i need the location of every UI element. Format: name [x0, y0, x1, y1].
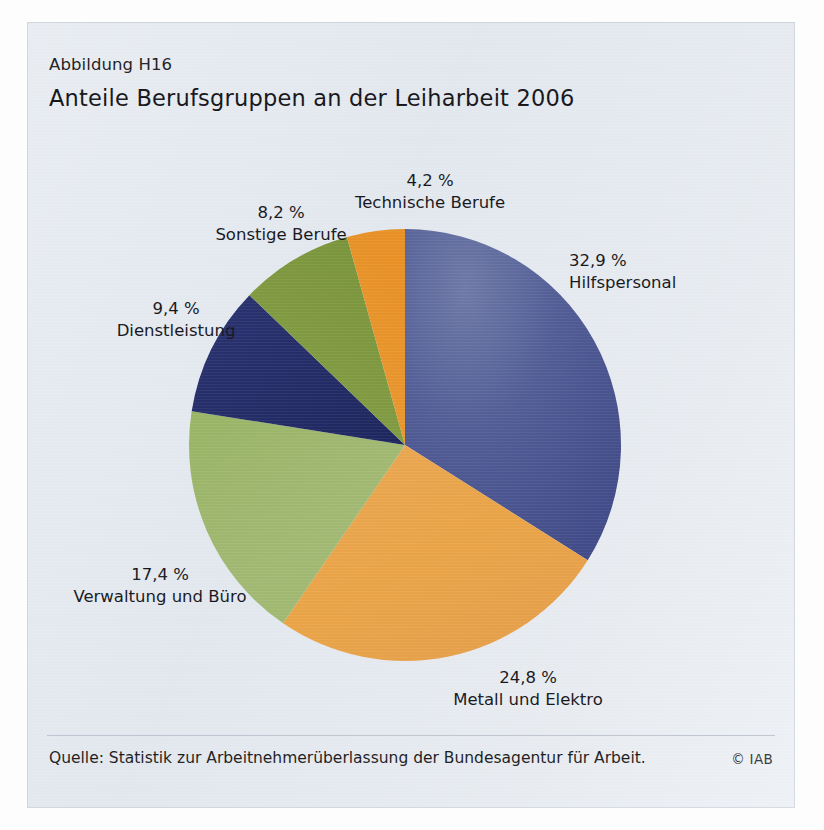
pie-label-sonstige-berufe-name: Sonstige Berufe [191, 224, 371, 246]
pie-label-verwaltung-und-buero-value: 17,4 % [37, 564, 283, 586]
pie-label-dienstleistung: 9,4 % Dienstleistung [86, 298, 266, 342]
pie-label-dienstleistung-name: Dienstleistung [86, 320, 266, 342]
source-note: Quelle: Statistik zur Arbeitnehmerüberla… [49, 749, 646, 767]
pie-chart: 4,2 % Technische Berufe 8,2 % Sonstige B… [27, 22, 795, 808]
pie-label-sonstige-berufe-value: 8,2 % [191, 202, 371, 224]
figure-panel: Abbildung H16 Anteile Berufsgruppen an d… [27, 22, 795, 808]
pie-label-hilfspersonal-value: 32,9 % [569, 250, 769, 272]
footer-divider [47, 735, 775, 736]
pie-label-metall-und-elektro: 24,8 % Metall und Elektro [408, 667, 648, 711]
copyright-note: © IAB [731, 751, 773, 767]
pie-label-technische-berufe-value: 4,2 % [335, 170, 525, 192]
pie-label-metall-und-elektro-value: 24,8 % [408, 667, 648, 689]
pie-label-sonstige-berufe: 8,2 % Sonstige Berufe [191, 202, 371, 246]
pie-label-verwaltung-und-buero-name: Verwaltung und Büro [37, 586, 283, 608]
pie-label-hilfspersonal: 32,9 % Hilfspersonal [569, 250, 769, 294]
pie-label-verwaltung-und-buero: 17,4 % Verwaltung und Büro [37, 564, 283, 608]
page-root: Abbildung H16 Anteile Berufsgruppen an d… [0, 0, 824, 830]
pie-label-metall-und-elektro-name: Metall und Elektro [408, 689, 648, 711]
pie-label-dienstleistung-value: 9,4 % [86, 298, 266, 320]
pie-label-hilfspersonal-name: Hilfspersonal [569, 272, 769, 294]
